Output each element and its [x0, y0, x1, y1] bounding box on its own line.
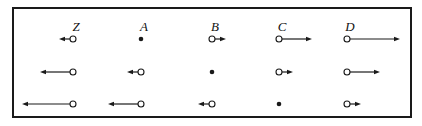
velocity-arrow-icon — [40, 69, 76, 75]
rest-dot-icon — [277, 102, 282, 107]
rest-dot-icon — [210, 70, 215, 75]
velocity-arrow-icon — [59, 36, 76, 42]
velocity-diagram: ZABCD — [0, 0, 422, 126]
velocity-arrow-icon — [344, 69, 380, 75]
velocity-arrow-icon — [344, 101, 361, 107]
velocity-arrow-icon — [276, 69, 293, 75]
velocity-arrow-icon — [127, 69, 144, 75]
velocity-arrow-icon — [108, 101, 144, 107]
velocity-arrow-icon — [22, 101, 76, 107]
velocity-arrow-icon — [344, 36, 400, 42]
vector-field — [0, 0, 422, 126]
velocity-arrow-icon — [198, 101, 215, 107]
velocity-arrow-icon — [209, 36, 226, 42]
rest-dot-icon — [139, 37, 144, 42]
velocity-arrow-icon — [276, 36, 312, 42]
